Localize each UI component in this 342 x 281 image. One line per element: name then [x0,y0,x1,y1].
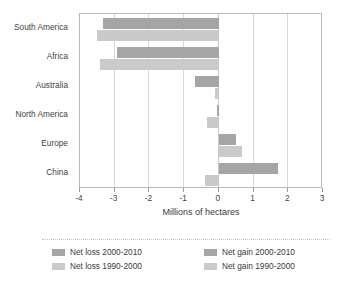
category-label: South America [14,23,68,32]
bar [195,76,219,87]
category-label: China [46,168,68,177]
x-tick [253,188,254,192]
x-axis: -4-3-2-10123 [79,188,322,208]
x-axis-title-text: Millions of hectares [102,207,239,217]
legend-item[interactable]: Net loss 2000-2010 [52,248,142,257]
legend-item[interactable]: Net gain 2000-2010 [204,248,295,257]
gridline [287,14,288,187]
legend-label: Net loss 1990-2000 [70,262,142,271]
bar [219,146,242,157]
category-label: Europe [41,139,68,148]
legend-swatch-icon [204,263,217,270]
x-tick-label: 0 [216,193,221,203]
x-tick [287,188,288,192]
chart-figure: South AmericaAfricaAustraliaNorth Americ… [0,0,342,281]
bar [205,175,219,186]
legend-label: Net gain 1990-2000 [222,262,295,271]
x-tick [79,188,80,192]
x-tick [218,188,219,192]
category-label: North America [15,110,68,119]
bar [219,163,278,174]
x-tick-label: -1 [179,193,186,203]
x-tick-label: 2 [285,193,290,203]
bar [215,88,219,99]
x-tick-label: -3 [110,193,117,203]
chart-legend: Net loss 2000-2010Net gain 2000-2010Net … [52,248,332,278]
x-tick-label: -2 [145,193,152,203]
category-label: Australia [36,81,68,90]
legend-swatch-icon [52,263,65,270]
bar [117,47,218,58]
legend-swatch-icon [52,249,65,256]
x-tick [183,188,184,192]
legend-divider [42,239,330,241]
x-tick [322,188,323,192]
legend-swatch-icon [204,249,217,256]
bar [100,59,219,70]
category-label: Africa [47,52,68,61]
bar [217,105,219,116]
legend-item[interactable]: Net gain 1990-2000 [204,262,295,271]
x-axis-title: Millions of hectares [0,207,342,217]
bar [207,117,218,128]
category-axis-labels: South AmericaAfricaAustraliaNorth Americ… [0,13,73,188]
x-tick [114,188,115,192]
bar [103,18,219,29]
x-tick-label: -4 [75,193,82,203]
plot-area [79,13,322,188]
legend-label: Net loss 2000-2010 [70,248,142,257]
x-tick-label: 1 [250,193,255,203]
bar [97,30,219,41]
bar [219,134,236,145]
gridline [253,14,254,187]
x-tick [148,188,149,192]
x-tick-label: 3 [320,193,325,203]
legend-item[interactable]: Net loss 1990-2000 [52,262,142,271]
legend-label: Net gain 2000-2010 [222,248,295,257]
